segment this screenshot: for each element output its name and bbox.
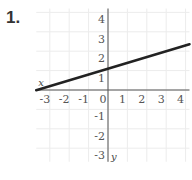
y-axis-label: y	[110, 151, 117, 162]
x-axis-label: x	[38, 77, 44, 88]
x-tick-label: -2	[59, 93, 70, 106]
x-tick-label: -1	[78, 93, 89, 106]
y-tick-label: -1	[94, 110, 105, 123]
x-tick-label: 2	[138, 93, 145, 106]
y-tick-label: -3	[94, 149, 105, 162]
y-tick-label: -2	[94, 130, 105, 143]
x-tick-label: 1	[119, 93, 126, 106]
y-tick-label: 4	[98, 13, 105, 26]
x-tick-label: 0	[100, 93, 107, 106]
x-tick-label: -3	[39, 93, 50, 106]
y-tick-label: 3	[98, 33, 105, 46]
x-tick-label: 3	[158, 93, 165, 106]
x-tick-label: 4	[177, 93, 184, 106]
y-tick-label: 2	[98, 52, 105, 65]
coordinate-plane: -3-2-1012344321-1-2-3xy	[0, 0, 192, 180]
y-tick-label: 1	[98, 72, 105, 85]
